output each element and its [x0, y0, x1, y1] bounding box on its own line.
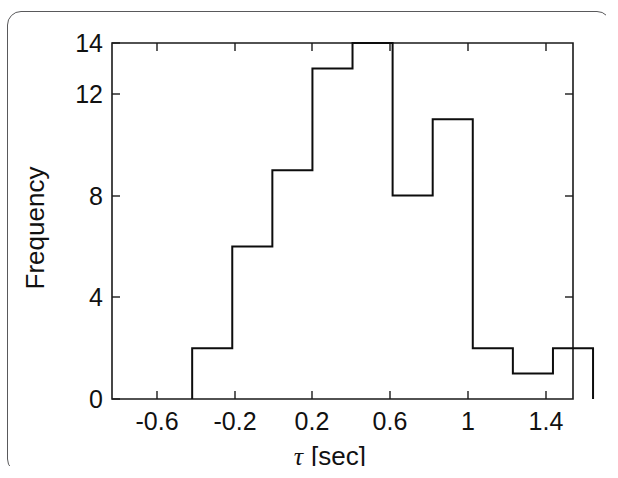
x-tick-label--0.2: -0.2	[213, 407, 256, 435]
x-tick-label-1: 1	[461, 407, 475, 435]
plot-box	[112, 43, 573, 399]
y-axis-title: Frequency	[20, 167, 50, 290]
x-tick-label--0.6: -0.6	[135, 407, 178, 435]
scan-crop-mask-right	[606, 0, 618, 478]
y-axis-ticks	[112, 43, 573, 399]
x-tick-label-0.2: 0.2	[295, 407, 330, 435]
y-tick-label-4: 4	[89, 283, 103, 311]
scan-crop-mask-bottom	[0, 466, 618, 478]
x-axis-ticks	[157, 43, 546, 399]
axis-frame	[112, 43, 573, 399]
y-tick-label-0: 0	[89, 385, 103, 413]
x-tick-labels: -0.6 -0.2 0.2 0.6 1 1.4	[135, 407, 563, 435]
x-tick-label-1.4: 1.4	[529, 407, 564, 435]
y-tick-label-12: 12	[75, 80, 103, 108]
histogram-bars	[192, 43, 593, 399]
histogram-svg: 14 12 8 4 0 -0.6 -0.2 0.2 0.6 1 1.4 Freq…	[0, 0, 618, 478]
x-tick-label-0.6: 0.6	[373, 407, 408, 435]
plot-area: 14 12 8 4 0 -0.6 -0.2 0.2 0.6 1 1.4 Freq…	[0, 0, 618, 478]
y-tick-label-8: 8	[89, 182, 103, 210]
y-tick-labels: 14 12 8 4 0	[75, 29, 103, 413]
y-tick-label-14: 14	[75, 29, 103, 57]
figure-histogram: 14 12 8 4 0 -0.6 -0.2 0.2 0.6 1 1.4 Freq…	[0, 0, 618, 478]
